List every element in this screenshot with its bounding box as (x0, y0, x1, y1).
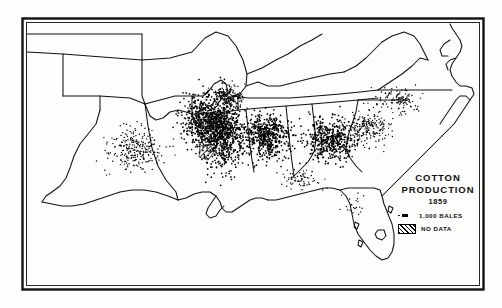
map-canvas (0, 0, 502, 308)
map-legend: COTTON PRODUCTION 1859 1,000 BALES NO DA… (392, 172, 484, 236)
hatch-swatch-icon (398, 224, 416, 234)
legend-title-line1: COTTON (392, 172, 484, 184)
cotton-production-map-figure: COTTON PRODUCTION 1859 1,000 BALES NO DA… (0, 0, 502, 308)
legend-title-line2: PRODUCTION (392, 184, 484, 196)
legend-year: 1859 (392, 196, 484, 207)
legend-entry-bales: 1,000 BALES (398, 210, 484, 221)
legend-entry-no-data: NO DATA (398, 223, 484, 234)
legend-label-bales: 1,000 BALES (419, 212, 463, 220)
dot-symbol-icon (398, 212, 414, 220)
legend-entry-list: 1,000 BALES NO DATA (392, 210, 484, 234)
legend-label-no-data: NO DATA (421, 225, 452, 233)
